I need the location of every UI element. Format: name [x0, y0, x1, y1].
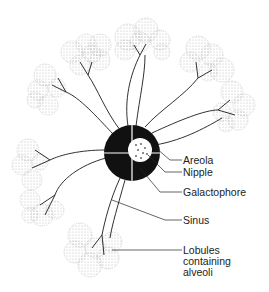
label-galactophore: Galactophore [183, 187, 246, 198]
lobule-top [115, 18, 170, 60]
breast-anatomy-diagram: Areola Nipple Galactophore Sinus Lobules… [0, 0, 269, 292]
diagram-drawing [0, 0, 269, 292]
nipple-shape [128, 138, 152, 162]
lobule-left-lower [20, 190, 64, 226]
label-sinus: Sinus [183, 215, 209, 226]
lobule-right [213, 81, 255, 132]
lobule-top-right [180, 36, 234, 82]
lobule-top-left [61, 34, 111, 75]
label-nipple: Nipple [183, 167, 213, 178]
label-lobules-line3: alveoli [183, 267, 213, 278]
lobule-left-middle [12, 139, 48, 190]
label-areola: Areola [183, 155, 213, 166]
